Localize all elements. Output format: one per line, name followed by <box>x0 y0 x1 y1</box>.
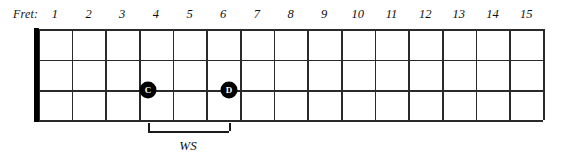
fretboard-diagram: Fret: 123456789101112131415 WS CD <box>0 0 573 159</box>
fret-line-5 <box>206 29 208 120</box>
fret-line-8 <box>307 29 309 120</box>
fret-line-6 <box>240 29 242 120</box>
fret-line-4 <box>173 29 175 120</box>
string-line-4 <box>34 120 543 122</box>
whole-step-label: WS <box>179 138 196 154</box>
fretboard-grid <box>0 0 573 159</box>
nut-bar <box>34 28 39 122</box>
fret-line-3 <box>139 29 141 120</box>
string-line-2 <box>34 60 543 62</box>
fret-line-14 <box>509 29 511 120</box>
bracket-tick-left <box>148 123 150 131</box>
bracket-horizontal-bar <box>148 131 229 133</box>
note-marker-d: D <box>221 82 238 99</box>
fret-line-7 <box>274 29 276 120</box>
string-line-1 <box>34 29 543 31</box>
fret-line-2 <box>105 29 107 120</box>
fret-line-12 <box>442 29 444 120</box>
fret-line-15 <box>543 29 545 120</box>
fret-line-1 <box>72 29 74 120</box>
fret-line-10 <box>375 29 377 120</box>
fret-line-13 <box>476 29 478 120</box>
fret-line-9 <box>341 29 343 120</box>
fret-line-11 <box>408 29 410 120</box>
string-line-3 <box>34 90 543 92</box>
bracket-tick-right <box>229 123 231 131</box>
note-marker-c: C <box>140 82 157 99</box>
